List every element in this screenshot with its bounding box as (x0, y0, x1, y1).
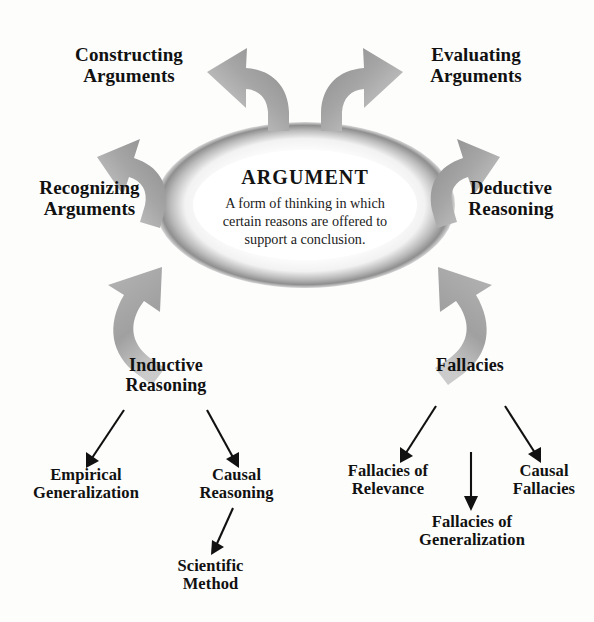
label-fallacies: Fallacies (410, 355, 530, 375)
center-body-line3: support a conclusion. (189, 230, 421, 248)
label-fallacies-of-generalization-line2: Generalization (386, 531, 558, 549)
connector-inductive-to-causal-reasoning (207, 410, 239, 468)
label-causal-reasoning-line2: Reasoning (174, 484, 299, 502)
label-deductive-reasoning-line1: Deductive (436, 177, 586, 198)
label-scientific-method: Scientific Method (148, 557, 273, 594)
label-recognizing-arguments-line1: Recognizing (12, 177, 167, 198)
label-deductive-reasoning-line2: Reasoning (436, 198, 586, 219)
arrow-constructing-arguments (207, 48, 289, 131)
label-causal-fallacies-line1: Causal (494, 462, 594, 480)
label-scientific-method-line2: Method (148, 575, 273, 593)
center-body-line2: certain reasons are offered to (189, 212, 421, 230)
label-causal-reasoning: Causal Reasoning (174, 466, 299, 503)
label-fallacies-of-generalization-line1: Fallacies of (386, 513, 558, 531)
label-fallacies-line1: Fallacies (410, 355, 530, 375)
label-fallacies-of-relevance: Fallacies of Relevance (318, 462, 458, 499)
label-evaluating-arguments-line2: Arguments (396, 65, 556, 86)
label-constructing-arguments: Constructing Arguments (44, 44, 214, 87)
connector-fallacies-to-causal-fallacies (505, 406, 541, 463)
label-constructing-arguments-line1: Constructing (44, 44, 214, 65)
label-causal-reasoning-line1: Causal (174, 466, 299, 484)
label-fallacies-of-relevance-line2: Relevance (318, 480, 458, 498)
label-inductive-reasoning: Inductive Reasoning (86, 355, 246, 395)
label-empirical-generalization-line2: Generalization (6, 484, 166, 502)
label-fallacies-of-generalization: Fallacies of Generalization (386, 513, 558, 550)
label-recognizing-arguments-line2: Arguments (12, 198, 167, 219)
connector-fallacies-to-relevance (400, 406, 436, 463)
connector-fallacies-to-generalization (464, 452, 478, 511)
label-scientific-method-line1: Scientific (148, 557, 273, 575)
label-causal-fallacies-line2: Fallacies (494, 480, 594, 498)
connector-causal-reasoning-to-scientific-method (211, 508, 233, 555)
center-body-line1: A form of thinking in which (189, 194, 421, 212)
label-fallacies-of-relevance-line1: Fallacies of (318, 462, 458, 480)
label-inductive-reasoning-line2: Reasoning (86, 375, 246, 395)
label-deductive-reasoning: Deductive Reasoning (436, 177, 586, 220)
label-empirical-generalization-line1: Empirical (6, 466, 166, 484)
center-body: A form of thinking in which certain reas… (189, 194, 421, 249)
label-empirical-generalization: Empirical Generalization (6, 466, 166, 503)
label-constructing-arguments-line2: Arguments (44, 65, 214, 86)
label-inductive-reasoning-line1: Inductive (86, 355, 246, 375)
connector-inductive-to-empirical (86, 410, 124, 468)
center-heading: ARGUMENT (175, 166, 435, 189)
label-evaluating-arguments-line1: Evaluating (396, 44, 556, 65)
label-evaluating-arguments: Evaluating Arguments (396, 44, 556, 87)
label-recognizing-arguments: Recognizing Arguments (12, 177, 167, 220)
arrow-evaluating-arguments (321, 48, 403, 131)
label-causal-fallacies: Causal Fallacies (494, 462, 594, 499)
